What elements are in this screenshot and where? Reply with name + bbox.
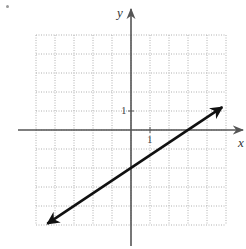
x-tick-label: 1 [147, 134, 153, 145]
axes [18, 9, 243, 246]
x-axis-label: x [238, 136, 244, 149]
coordinate-plane [0, 0, 246, 249]
y-tick-label: 1 [121, 105, 127, 116]
y-axis-label: y [117, 6, 123, 19]
